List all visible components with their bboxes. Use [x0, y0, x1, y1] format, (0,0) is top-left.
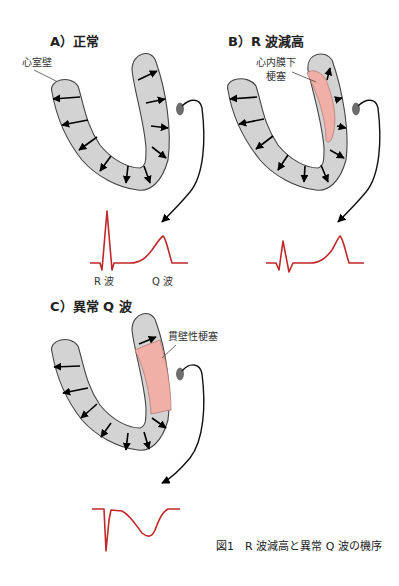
- panel-a: A）正常 心室壁 R 波 Q 波: [22, 34, 204, 287]
- figure-canvas: A）正常 心室壁 R 波 Q 波 B）R 波減高 心内膜下 梗塞: [0, 0, 399, 586]
- ecg-label-q: Q 波: [152, 275, 173, 287]
- figure-caption: 図1 R 波減高と異常 Q 波の機序: [216, 539, 382, 553]
- infarct-label-b-line1: 心内膜下: [256, 56, 296, 68]
- panel-b: B）R 波減高 心内膜下 梗塞: [228, 34, 380, 272]
- ecg-trace-c: [92, 509, 180, 551]
- infarct-label-c: 貫壁性梗塞: [168, 330, 218, 342]
- ecg-trace-b: [266, 236, 364, 272]
- panel-c: C）異常 Q 波 貫壁性梗塞: [50, 299, 218, 551]
- ecg-label-r: R 波: [94, 275, 114, 287]
- panel-c-title: C）異常 Q 波: [50, 299, 133, 314]
- wall-label: 心室壁: [22, 56, 52, 68]
- panel-a-title: A）正常: [50, 34, 99, 49]
- transmural-infarct-c: [135, 340, 171, 414]
- infarct-label-b-line2: 梗塞: [266, 70, 286, 82]
- panel-b-title: B）R 波減高: [228, 34, 304, 49]
- wall-label-leader: [34, 70, 58, 82]
- ecg-trace-a: [90, 211, 188, 270]
